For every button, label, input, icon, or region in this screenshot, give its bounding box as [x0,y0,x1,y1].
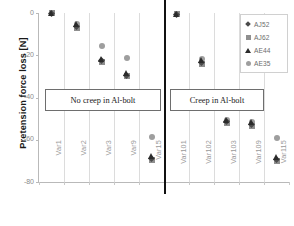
annotation-no-creep: No creep in Al-bolt [45,89,161,111]
data-point-ae44-var109 [248,119,254,125]
legend-item-label: AJ52 [254,18,269,31]
legend-item[interactable]: AE35 [244,57,287,70]
data-point-ae44-var1 [48,10,54,16]
x-tickmark [239,182,240,185]
x-tickmark [114,182,115,185]
y-tick-label: -40 [12,93,34,101]
x-tick-label: Var102 [204,140,213,186]
panel-divider-line [164,0,166,194]
x-tickmark [264,182,265,185]
scatter-chart: Pretension force loss [N] 0 -20 -40 -60 … [0,0,294,226]
x-tickmark [214,182,215,185]
data-point-ae35-var9 [124,55,130,61]
legend-item-label: AE44 [254,44,271,57]
x-tickmark [289,182,290,185]
annotation-text: Creep in Al-bolt [190,96,244,105]
y-tickmark [36,140,39,141]
data-point-ae35-var3 [99,43,105,49]
x-tickmark [139,182,140,185]
data-point-ae44-var101 [173,11,179,17]
x-tick-label: Var2 [79,140,88,186]
x-tick-label: Var109 [254,140,263,186]
x-tickmark [39,182,40,185]
y-tickmark [36,98,39,99]
y-tickmark [36,55,39,56]
triangle-marker-icon [244,44,254,57]
data-point-ae44-var102 [198,57,204,63]
diamond-marker-icon [244,18,254,31]
legend-item-label: AJ62 [254,31,269,44]
x-tick-label: Var101 [179,140,188,186]
y-axis-tick-labels: 0 -20 -40 -60 -80 [10,0,34,226]
data-point-ae44-var3 [98,56,104,62]
data-point-ae44-var2 [73,21,79,27]
legend-item[interactable]: AJ62 [244,31,287,44]
x-tick-label: Var15 [154,140,163,186]
square-marker-icon [244,31,254,44]
x-tick-label: Var9 [129,140,138,186]
legend-item[interactable]: AE44 [244,44,287,57]
legend-item[interactable]: AJ52 [244,18,287,31]
circle-marker-icon [244,57,254,70]
data-point-ae44-var115 [273,154,279,160]
x-tick-label: Var115 [279,140,288,186]
y-tickmark [36,13,39,14]
y-tick-label: -60 [12,135,34,143]
x-tick-label: Var103 [229,140,238,186]
data-point-ae35-var15 [149,134,155,140]
y-tick-label: 0 [12,9,34,17]
data-point-ae35-var115 [274,135,280,141]
x-tick-label: Var3 [104,140,113,186]
data-point-ae44-var15 [148,153,154,159]
y-tick-label: -80 [12,178,34,186]
legend-item-label: AE35 [254,57,271,70]
annotation-text: No creep in Al-bolt [71,96,136,105]
chart-legend: AJ52 AJ62 AE44 AE35 [240,14,288,73]
y-tick-label: -20 [12,51,34,59]
annotation-creep: Creep in Al-bolt [170,89,264,111]
x-tick-label: Var1 [54,140,63,186]
data-point-ae44-var9 [123,70,129,76]
data-point-ae44-var103 [223,117,229,123]
x-tickmark [89,182,90,185]
x-tickmark [64,182,65,185]
x-tickmark [189,182,190,185]
